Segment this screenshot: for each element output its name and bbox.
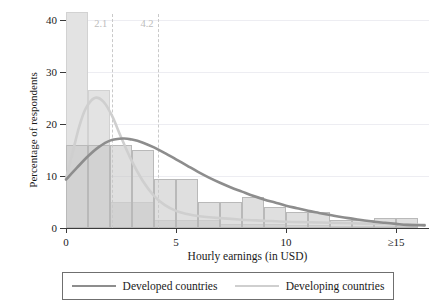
histogram-bar [308, 212, 330, 228]
histogram-bar [176, 179, 198, 228]
x-tick-label: ≥15 [387, 236, 404, 248]
plot-area: Percentage of respondents Hourly earning… [0, 0, 448, 308]
x-tick-label: 0 [63, 236, 69, 248]
histogram-bar [110, 145, 132, 228]
y-axis-title: Percentage of respondents [27, 35, 39, 225]
histogram-bar [286, 212, 308, 228]
gridline [67, 20, 429, 21]
reference-line [112, 14, 113, 228]
histogram-bar [220, 202, 242, 228]
y-tick-label: 30 [46, 66, 57, 78]
histogram-bar [198, 202, 220, 228]
histogram-bar [352, 220, 374, 228]
gridline [67, 124, 429, 125]
histogram-bar [88, 145, 110, 228]
legend-item-developed: Developed countries [72, 280, 218, 292]
x-tick [176, 228, 177, 233]
y-tick-label: 0 [52, 222, 58, 234]
histogram-bar [330, 220, 352, 228]
histogram-bar [374, 218, 396, 228]
y-tick-label: 10 [46, 170, 57, 182]
chart-figure: Percentage of respondents Hourly earning… [0, 0, 448, 308]
x-tick [396, 228, 397, 233]
legend-line-developed-icon [72, 285, 116, 287]
histogram-bar [396, 218, 418, 228]
y-tick-label: 20 [46, 118, 57, 130]
histogram-bar [242, 197, 264, 228]
reference-line-label: 4.2 [140, 18, 153, 29]
x-tick-label: 10 [281, 236, 292, 248]
histogram-bar [264, 207, 286, 228]
histogram-bar [154, 179, 176, 228]
reference-line-label: 2.1 [94, 18, 107, 29]
x-axis-title: Hourly earnings (in USD) [66, 250, 429, 262]
x-tick [66, 228, 67, 233]
x-tick [286, 228, 287, 233]
legend-line-developing-icon [235, 285, 279, 287]
reference-line [158, 14, 159, 228]
legend-label-developing: Developing countries [286, 280, 385, 292]
y-tick-label: 40 [46, 14, 57, 26]
histogram-bar [66, 145, 88, 228]
chart-legend: Developed countries Developing countries [62, 272, 394, 300]
x-tick-label: 5 [173, 236, 179, 248]
legend-item-developing: Developing countries [235, 280, 385, 292]
gridline [67, 72, 429, 73]
histogram-bar [132, 150, 154, 228]
legend-label-developed: Developed countries [123, 280, 218, 292]
